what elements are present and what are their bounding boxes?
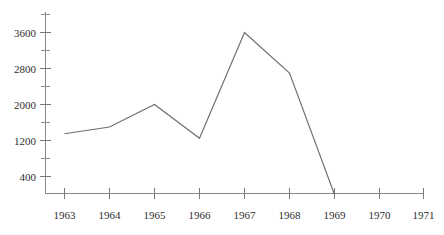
x-axis-label-1971: 1971 bbox=[413, 209, 435, 221]
y-axis-label-2000: 2000 bbox=[14, 99, 37, 111]
x-axis-label-1966: 1966 bbox=[189, 209, 212, 221]
x-axis-label-1970: 1970 bbox=[369, 209, 392, 221]
x-axis-label-1963: 1963 bbox=[54, 209, 77, 221]
x-axis-label-1964: 1964 bbox=[99, 209, 122, 221]
x-axis-label-1967: 1967 bbox=[234, 209, 257, 221]
x-axis-label-1968: 1968 bbox=[279, 209, 302, 221]
line-chart: 3600 2800 2000 1200 400 1963 1964 1965 1… bbox=[0, 0, 444, 235]
y-axis-label-2800: 2800 bbox=[14, 63, 37, 75]
x-axis-label-1969: 1969 bbox=[324, 209, 347, 221]
chart-plot-area: 3600 2800 2000 1200 400 1963 1964 1965 1… bbox=[0, 0, 444, 235]
y-axis-label-400: 400 bbox=[20, 171, 37, 183]
y-axis-label-1200: 1200 bbox=[14, 135, 37, 147]
data-series-line bbox=[65, 33, 335, 195]
x-axis-label-1965: 1965 bbox=[144, 209, 167, 221]
y-axis-label-3600: 3600 bbox=[14, 27, 37, 39]
